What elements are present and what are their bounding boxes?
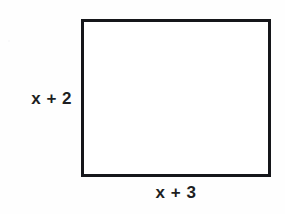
geometry-figure: x + 2 x + 3 [0,0,285,214]
rectangle-shape [81,19,271,177]
height-dimension-label: x + 2 [31,19,72,177]
width-dimension-label: x + 3 [81,184,271,201]
